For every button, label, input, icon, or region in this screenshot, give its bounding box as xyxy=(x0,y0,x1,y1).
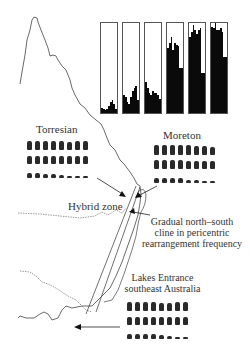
chromosome-icon xyxy=(162,160,167,169)
chromosome-icon xyxy=(135,317,140,325)
arrowhead-icon xyxy=(119,191,126,197)
chromosome-icon xyxy=(51,174,56,178)
chromosome-icon xyxy=(202,181,207,183)
chromosome-icon xyxy=(83,141,88,150)
chromosome-icon xyxy=(186,180,191,183)
chromosome-icon xyxy=(175,337,180,339)
chromosome-icon xyxy=(67,142,72,150)
chromosome-icon xyxy=(183,337,188,339)
chromosome-icon xyxy=(167,317,172,325)
chromosome-icon xyxy=(194,180,199,183)
chromosome-icon xyxy=(135,334,140,339)
chromosome-icon xyxy=(186,145,191,155)
label-cline: Gradual north–south cline in pericentric… xyxy=(134,216,250,249)
arrowhead-icon xyxy=(74,324,81,330)
chart-panel-2 xyxy=(122,22,140,114)
chart-panel-4 xyxy=(166,22,184,114)
chromosome-icon xyxy=(35,141,40,150)
chromosome-icon xyxy=(27,173,32,178)
chromosome-icon xyxy=(170,178,175,183)
chromosome-icon xyxy=(170,145,175,155)
chart-bar xyxy=(159,99,161,113)
chromosome-icon xyxy=(162,178,167,183)
chromosome-icon xyxy=(83,156,88,164)
label-lakes-line2: southeast Australia xyxy=(115,283,210,294)
chromosome-icon xyxy=(154,145,159,155)
karyotype-moreton xyxy=(154,144,215,186)
karyotype-row xyxy=(27,153,88,164)
chromosome-icon xyxy=(43,156,48,164)
karyotype-torresian xyxy=(27,139,88,181)
chromosome-icon xyxy=(178,145,183,155)
chromosome-icon xyxy=(154,160,159,169)
karyotype-row xyxy=(154,172,215,183)
karyotype-row xyxy=(27,167,88,178)
chromosome-icon xyxy=(127,317,132,325)
label-lakes-line1: Lakes Entrance xyxy=(115,272,210,283)
chromosome-icon xyxy=(143,317,148,325)
chromosome-icon xyxy=(75,176,80,178)
chromosome-icon xyxy=(183,302,188,311)
chromosome-icon xyxy=(67,156,72,164)
chromosome-icon xyxy=(186,161,191,169)
chart-panel-3 xyxy=(144,22,162,114)
chromosome-icon xyxy=(35,173,40,178)
chromosome-icon xyxy=(43,174,48,178)
karyotype-row xyxy=(127,300,188,311)
chromosome-icon xyxy=(194,161,199,169)
chromosome-icon xyxy=(151,302,156,311)
chromosome-icon xyxy=(210,147,215,155)
label-hybrid-zone: Hybrid zone xyxy=(68,201,123,212)
chromosome-icon xyxy=(202,146,207,155)
chromosome-icon xyxy=(151,317,156,325)
label-cline-line2: cline in pericentric xyxy=(134,227,250,238)
chromosome-icon xyxy=(183,317,188,325)
chromosome-icon xyxy=(27,141,32,150)
karyotype-lakes-entrance xyxy=(127,300,188,342)
chromosome-icon xyxy=(175,317,180,325)
chromosome-icon xyxy=(51,141,56,150)
chromosome-icon xyxy=(151,334,156,339)
karyotype-row xyxy=(27,139,88,150)
chart-bar xyxy=(115,109,117,113)
chromosome-icon xyxy=(175,302,180,311)
chart-bar xyxy=(137,100,139,113)
chromosome-icon xyxy=(43,141,48,150)
chromosome-icon xyxy=(127,302,132,311)
chart-panel-6 xyxy=(210,22,228,114)
chart-panel-5 xyxy=(188,22,206,114)
chromosome-icon xyxy=(167,303,172,311)
chromosome-icon xyxy=(154,178,159,183)
chromosome-icon xyxy=(167,336,172,339)
chart-bar xyxy=(225,57,227,113)
chromosome-icon xyxy=(135,302,140,311)
arrow-torresian xyxy=(97,178,124,195)
karyotype-row xyxy=(154,144,215,155)
chromosome-icon xyxy=(67,176,72,178)
label-cline-line3: rearrangement frequency xyxy=(134,238,250,249)
karyotype-row xyxy=(127,328,188,339)
karyotype-row xyxy=(127,314,188,325)
chromosome-icon xyxy=(59,175,64,178)
chromosome-icon xyxy=(35,156,40,164)
chromosome-icon xyxy=(170,160,175,169)
chromosome-icon xyxy=(194,146,199,155)
chromosome-icon xyxy=(75,156,80,164)
karyotype-row xyxy=(154,158,215,169)
label-torresian: Torresian xyxy=(36,124,77,135)
chromosome-icon xyxy=(143,302,148,311)
chromosome-icon xyxy=(178,178,183,183)
label-moreton: Moreton xyxy=(163,130,201,141)
chromosome-icon xyxy=(59,156,64,164)
chart-bar xyxy=(203,73,205,113)
chromosome-icon xyxy=(127,334,132,339)
label-cline-line1: Gradual north–south xyxy=(134,216,250,227)
chromosome-icon xyxy=(83,176,88,178)
chart-bar xyxy=(181,68,183,113)
chromosome-icon xyxy=(210,181,215,183)
chromosome-icon xyxy=(178,160,183,169)
chromosome-icon xyxy=(162,145,167,155)
chromosome-icon xyxy=(143,334,148,339)
chromosome-icon xyxy=(27,156,32,164)
chromosome-icon xyxy=(51,156,56,164)
